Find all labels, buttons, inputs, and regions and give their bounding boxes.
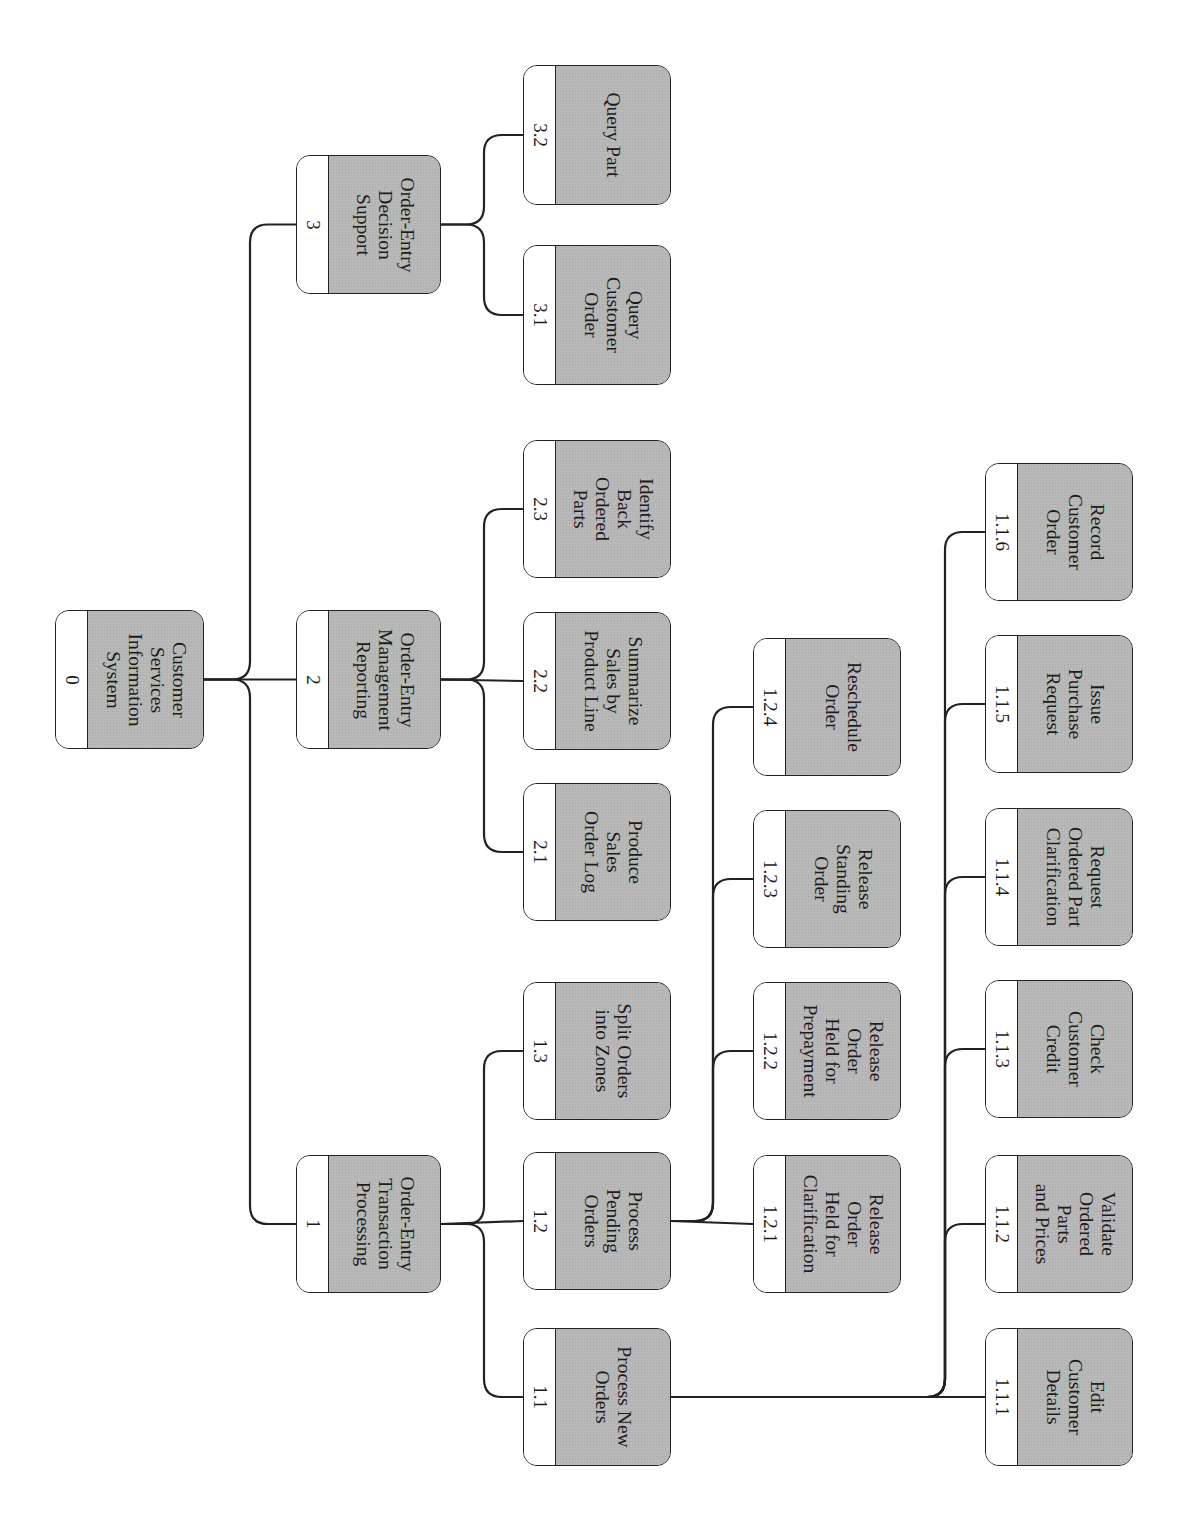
connector-line xyxy=(204,680,296,1225)
process-label: Request Ordered Part Clarification xyxy=(1042,827,1108,927)
process-box-1-1-5: 1.1.5Issue Purchase Request xyxy=(985,635,1133,773)
process-box-1-1-6: 1.1.6Record Customer Order xyxy=(985,463,1133,601)
process-label: Order-Entry Transaction Processing xyxy=(352,1177,418,1272)
process-id: 3.2 xyxy=(529,123,551,147)
process-id: 1.1 xyxy=(529,1385,551,1409)
process-label: Edit Customer Details xyxy=(1042,1359,1108,1435)
process-id: 1.2.1 xyxy=(759,1205,781,1243)
process-label: Query Part xyxy=(602,92,624,177)
process-id-strip: 2.2 xyxy=(524,613,556,749)
process-id-strip: 1.2.3 xyxy=(754,811,786,947)
process-label: Record Customer Order xyxy=(1042,494,1108,570)
process-box-1-2-2: 1.2.2Release Order Held for Prepayment xyxy=(753,982,901,1120)
process-id: 2.2 xyxy=(529,669,551,693)
process-label-area: Process New Orders xyxy=(556,1329,670,1465)
process-id: 1.1.2 xyxy=(991,1205,1013,1243)
process-box-2-2: 2.2Summarize Sales by Product Line xyxy=(523,612,671,750)
process-label-area: Release Standing Order xyxy=(786,811,900,947)
process-box-3: 3Order-Entry Decision Support xyxy=(296,155,441,294)
process-id: 3 xyxy=(302,220,324,230)
process-label: Release Standing Order xyxy=(810,844,876,913)
process-label: Process New Orders xyxy=(591,1346,635,1447)
process-label-area: Customer Services Information System xyxy=(88,611,203,748)
process-label-area: Process Pending Orders xyxy=(556,1153,670,1289)
process-id-strip: 2.3 xyxy=(524,441,556,577)
connector-line xyxy=(671,877,985,1397)
process-label: Release Order Held for Prepayment xyxy=(799,1004,887,1097)
process-label-area: Release Order Held for Prepayment xyxy=(786,983,900,1119)
process-id: 1.1.6 xyxy=(991,513,1013,551)
process-id-strip: 1.1 xyxy=(524,1329,556,1465)
connector-line xyxy=(441,1224,523,1397)
process-label: Issue Purchase Request xyxy=(1042,669,1108,739)
connector-line xyxy=(441,135,523,225)
connector-line xyxy=(671,1221,753,1224)
process-id-strip: 3.2 xyxy=(524,66,556,204)
process-label-area: Order-Entry Management Reporting xyxy=(329,611,440,748)
process-id: 2 xyxy=(302,675,324,685)
process-id: 3.1 xyxy=(529,303,551,327)
process-label-area: Issue Purchase Request xyxy=(1018,636,1132,772)
process-label-area: Check Customer Credit xyxy=(1018,981,1132,1117)
process-id: 1.2.4 xyxy=(759,688,781,726)
process-label-area: Edit Customer Details xyxy=(1018,1329,1132,1465)
process-id-strip: 3 xyxy=(297,156,329,293)
process-id: 1.2.3 xyxy=(759,860,781,898)
process-label: Identify Back Ordered Parts xyxy=(569,477,657,541)
process-id-strip: 1.1.3 xyxy=(986,981,1018,1117)
process-box-1-1-1: 1.1.1Edit Customer Details xyxy=(985,1328,1133,1466)
process-label: Order-Entry Management Reporting xyxy=(352,629,418,731)
process-box-1-1-3: 1.1.3Check Customer Credit xyxy=(985,980,1133,1118)
process-id: 1.1.4 xyxy=(991,858,1013,896)
process-label: Validate Ordered Parts and Prices xyxy=(1031,1184,1119,1265)
process-box-1-2: 1.2Process Pending Orders xyxy=(523,1152,671,1290)
process-box-3-2: 3.2Query Part xyxy=(523,65,671,205)
process-id: 1.1.3 xyxy=(991,1030,1013,1068)
process-id: 1.1.1 xyxy=(991,1378,1013,1416)
process-label-area: Produce Sales Order Log xyxy=(556,784,670,920)
process-label-area: Summarize Sales by Product Line xyxy=(556,613,670,749)
process-id: 1.2 xyxy=(529,1209,551,1233)
process-id: 2.3 xyxy=(529,497,551,521)
process-label: Split Orders into Zones xyxy=(591,1004,635,1099)
connector-line xyxy=(671,1051,753,1221)
process-box-2-1: 2.1Produce Sales Order Log xyxy=(523,783,671,921)
process-label: Reschedule Order xyxy=(821,662,865,752)
connector-line xyxy=(441,680,523,853)
process-label-area: Identify Back Ordered Parts xyxy=(556,441,670,577)
process-id-strip: 1.1.6 xyxy=(986,464,1018,600)
process-id-strip: 3.1 xyxy=(524,246,556,384)
process-id: 1.2.2 xyxy=(759,1032,781,1070)
process-id-strip: 1.1.5 xyxy=(986,636,1018,772)
process-label: Order-Entry Decision Support xyxy=(352,177,418,272)
process-label-area: Order-Entry Decision Support xyxy=(329,156,440,293)
process-box-1-1-4: 1.1.4Request Ordered Part Clarification xyxy=(985,808,1133,946)
process-label: Process Pending Orders xyxy=(580,1189,646,1253)
process-id-strip: 1.3 xyxy=(524,983,556,1119)
process-id: 0 xyxy=(61,675,83,685)
process-id: 1.1.5 xyxy=(991,685,1013,723)
process-id-strip: 2 xyxy=(297,611,329,748)
process-label-area: Record Customer Order xyxy=(1018,464,1132,600)
process-label: Check Customer Credit xyxy=(1042,1011,1108,1087)
process-box-3-1: 3.1Query Customer Order xyxy=(523,245,671,385)
process-label-area: Split Orders into Zones xyxy=(556,983,670,1119)
process-box-0: 0Customer Services Information System xyxy=(55,610,204,749)
process-label-area: Query Customer Order xyxy=(556,246,670,384)
process-id: 1.3 xyxy=(529,1039,551,1063)
process-box-2: 2Order-Entry Management Reporting xyxy=(296,610,441,749)
process-label-area: Release Order Held for Clarification xyxy=(786,1156,900,1292)
process-box-1-2-4: 1.2.4Reschedule Order xyxy=(753,638,901,776)
process-id-strip: 1.2.2 xyxy=(754,983,786,1119)
connector-line xyxy=(204,225,296,680)
process-label-area: Query Part xyxy=(556,66,670,204)
connector-line xyxy=(441,509,523,680)
process-box-1: 1Order-Entry Transaction Processing xyxy=(296,1155,441,1293)
process-id-strip: 1.1.1 xyxy=(986,1329,1018,1465)
process-id-strip: 1.1.4 xyxy=(986,809,1018,945)
process-id-strip: 1 xyxy=(297,1156,329,1292)
process-label: Query Customer Order xyxy=(580,277,646,353)
process-id: 1 xyxy=(302,1219,324,1229)
connector-line xyxy=(441,1051,523,1224)
process-id: 2.1 xyxy=(529,840,551,864)
